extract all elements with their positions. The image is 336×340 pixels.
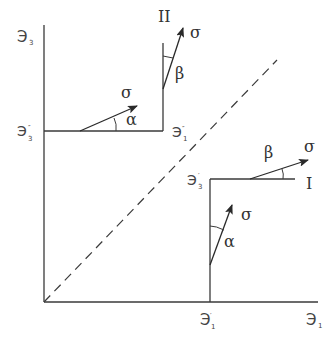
panel-i-axis-sub: 1 bbox=[211, 323, 215, 331]
panel-i-beta-label: β bbox=[264, 143, 273, 162]
panel-ii-axis-label: Э bbox=[17, 123, 27, 139]
panel-i-corner-sub: 3 bbox=[198, 183, 202, 191]
panel-ii-corner-sub: 1 bbox=[183, 135, 187, 143]
panel-i-axis-prime: ′ bbox=[210, 312, 212, 320]
panel-ii-beta-arc bbox=[163, 56, 173, 58]
panel-ii-beta-label: β bbox=[175, 64, 184, 83]
panel-i-vector-horizontal bbox=[250, 160, 308, 179]
y-axis-label: Э bbox=[17, 28, 27, 46]
panel-i bbox=[210, 160, 308, 302]
panel-i-axis-label: Э bbox=[200, 311, 210, 329]
diagonal-dashed-line bbox=[44, 60, 277, 302]
panel-i-vertical-sigma: σ bbox=[241, 205, 252, 224]
panel-i-horizontal-sigma: σ bbox=[304, 137, 315, 156]
panel-ii-alpha-arc bbox=[114, 118, 116, 131]
panel-i-alpha-arc bbox=[210, 226, 224, 230]
panel-ii-axis-prime: ″ bbox=[28, 124, 31, 132]
y-axis-label-sub: 3 bbox=[29, 39, 33, 47]
panel-ii-corner-prime: ″ bbox=[182, 125, 185, 133]
panel-ii-vertical-sigma: σ bbox=[190, 23, 201, 42]
panel-ii-corner-label: Э bbox=[172, 124, 182, 140]
x-axis-label-sub: 1 bbox=[318, 322, 322, 330]
panel-ii-alpha-label: α bbox=[126, 110, 137, 129]
panel-i-corner-label: Э bbox=[187, 172, 197, 188]
panel-i-beta-arc bbox=[282, 169, 283, 179]
panel-i-corner-prime: ′ bbox=[198, 172, 200, 180]
panel-i-roman-label: I bbox=[306, 174, 312, 193]
panel-ii bbox=[44, 28, 183, 131]
panel-ii-axis-sub: 3 bbox=[28, 135, 32, 143]
x-axis-label: Э bbox=[306, 311, 316, 329]
panel-ii-horizontal-sigma: σ bbox=[121, 83, 132, 102]
panel-ii-roman-label: II bbox=[158, 7, 171, 26]
panel-i-alpha-label: α bbox=[224, 232, 235, 251]
stress-diagram: Э 3 Э 1 II σ β σ α Э 1 ″ Э 3 ″ I β σ σ α… bbox=[0, 0, 336, 340]
